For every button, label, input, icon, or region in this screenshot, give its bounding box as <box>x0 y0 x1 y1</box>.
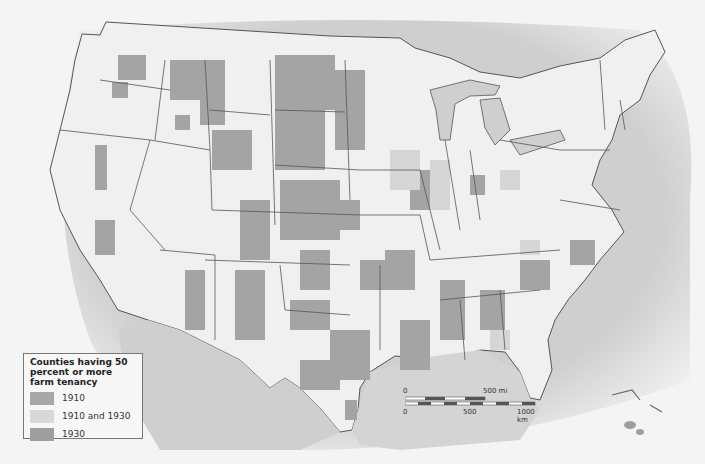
scale-km-end: 1000 km <box>517 408 535 424</box>
scale-mi-start: 0 <box>403 387 407 395</box>
legend-label: 1910 and 1930 <box>62 411 130 421</box>
map-legend: Counties having 50 percent or more farm … <box>23 353 143 439</box>
scale-bar-graphic <box>405 396 540 408</box>
legend-label: 1910 <box>62 393 85 403</box>
legend-item-1930: 1930 <box>30 427 136 441</box>
legend-item-1910: 1910 <box>30 391 136 405</box>
swatch-1910 <box>30 392 54 405</box>
scale-bar: 0 500 mi 0 500 1000 km <box>405 393 525 423</box>
legend-label: 1930 <box>62 429 85 439</box>
swatch-1930 <box>30 428 54 441</box>
legend-title: Counties having 50 percent or more farm … <box>30 357 136 387</box>
scale-km-start: 0 <box>403 408 407 416</box>
swatch-1910-and-1930 <box>30 410 54 423</box>
scale-km-mid: 500 <box>463 408 476 416</box>
legend-item-1910-and-1930: 1910 and 1930 <box>30 409 136 423</box>
scale-mi-end: 500 mi <box>483 387 507 395</box>
